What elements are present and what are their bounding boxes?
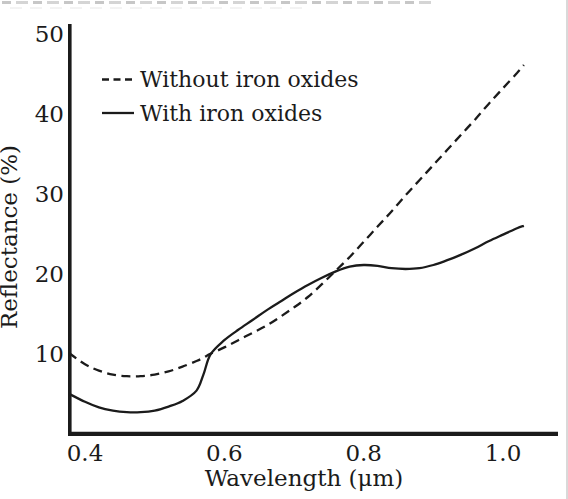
x-axis-title: Wavelength (μm) bbox=[205, 465, 404, 491]
y-tick-label: 10 bbox=[35, 341, 64, 367]
legend-label-without-iron-oxides: Without iron oxides bbox=[140, 67, 359, 92]
y-tick-label: 30 bbox=[35, 181, 64, 207]
series-line-with-iron-oxides bbox=[69, 226, 524, 413]
x-tick-label: 0.6 bbox=[206, 440, 243, 466]
y-tick-label: 50 bbox=[35, 21, 64, 47]
y-axis-tick-labels: 1020304050 bbox=[35, 21, 64, 367]
x-axis-tick-labels: 0.40.60.81.0 bbox=[67, 440, 522, 466]
x-tick-label: 1.0 bbox=[485, 440, 522, 466]
y-tick-label: 40 bbox=[35, 101, 64, 127]
reflectance-vs-wavelength-chart: 1020304050 0.40.60.81.0 Wavelength (μm) … bbox=[0, 0, 568, 499]
x-tick-label: 0.8 bbox=[345, 440, 382, 466]
reflectance-figure: 1020304050 0.40.60.81.0 Wavelength (μm) … bbox=[0, 0, 568, 499]
y-tick-label: 20 bbox=[35, 261, 64, 287]
x-tick-label: 0.4 bbox=[67, 440, 104, 466]
y-axis-title: Reflectance (%) bbox=[0, 145, 22, 329]
legend-label-with-iron-oxides: With iron oxides bbox=[140, 101, 322, 126]
legend: Without iron oxides With iron oxides bbox=[102, 67, 359, 126]
